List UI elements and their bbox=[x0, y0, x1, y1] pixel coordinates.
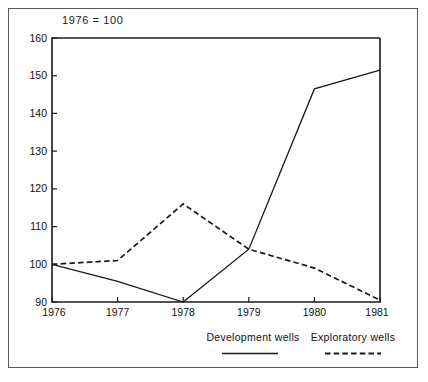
x-axis-labels: 1976 1977 1978 1979 1980 1981 bbox=[42, 306, 389, 318]
y-tick-label: 110 bbox=[30, 220, 47, 232]
series-line-development-wells bbox=[52, 70, 380, 302]
y-tick-label: 130 bbox=[29, 145, 47, 157]
axis-frame bbox=[52, 38, 380, 302]
y-tick-label: 120 bbox=[29, 182, 47, 194]
x-tick-label: 1981 bbox=[365, 306, 389, 318]
x-tick-label: 1978 bbox=[172, 306, 196, 318]
x-tick-label: 1977 bbox=[106, 306, 130, 318]
y-tick-label: 150 bbox=[29, 69, 47, 81]
y-tick-label: 100 bbox=[29, 258, 47, 270]
legend-label-exploratory-wells: Exploratory wells bbox=[311, 331, 395, 343]
legend-label-development-wells: Development wells bbox=[206, 331, 299, 343]
chart-legend: Development wells Exploratory wells bbox=[206, 331, 395, 354]
line-chart: 90 100 110 120 130 140 150 160 1976 1977… bbox=[0, 0, 428, 382]
series-line-exploratory-wells bbox=[52, 204, 380, 300]
y-tick-label: 160 bbox=[29, 32, 47, 44]
x-tick-label: 1979 bbox=[237, 306, 261, 318]
x-tick-label: 1976 bbox=[42, 306, 66, 318]
x-tick-label: 1980 bbox=[303, 306, 327, 318]
y-tick-label: 140 bbox=[29, 107, 47, 119]
y-axis-labels: 90 100 110 120 130 140 150 160 bbox=[29, 32, 47, 308]
